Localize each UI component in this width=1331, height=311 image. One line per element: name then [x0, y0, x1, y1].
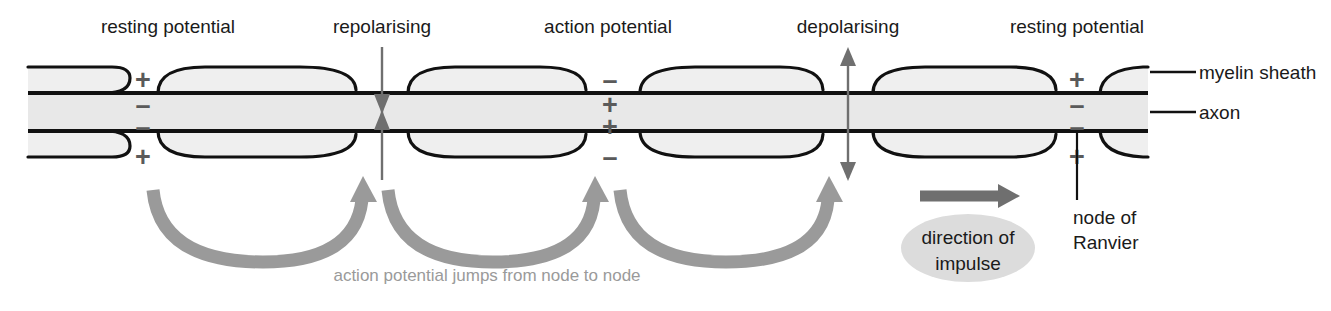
label-node-of-ranvier-line2: Ranvier — [1073, 232, 1139, 253]
axon-body — [28, 67, 1148, 157]
label-resting-potential-right: resting potential — [1010, 16, 1144, 37]
diagram-canvas: resting potential repolarising action po… — [0, 0, 1331, 311]
sign-inner-bottom-ap: + — [602, 112, 618, 142]
impulse-bubble-line2: impulse — [935, 253, 1000, 274]
label-node-of-ranvier-line1: node of — [1073, 207, 1137, 228]
label-depolarising: depolarising — [797, 16, 899, 37]
direction-of-impulse-group: direction of impulse — [901, 184, 1035, 282]
sign-inner-bottom-left: – — [135, 112, 150, 142]
neuron-saltatory-conduction-diagram: resting potential repolarising action po… — [0, 0, 1331, 311]
label-action-potential: action potential — [544, 16, 672, 37]
charge-signs-resting-left: + – – + — [135, 65, 151, 172]
sign-outer-bottom-ap: – — [602, 142, 617, 172]
label-axon: axon — [1199, 102, 1240, 123]
impulse-bubble-line1: direction of — [922, 227, 1016, 248]
axon-cytoplasm — [28, 93, 1148, 131]
sign-outer-bottom-left: + — [135, 142, 151, 172]
label-resting-potential-left: resting potential — [101, 16, 235, 37]
charge-signs-action-potential: – + + – — [602, 65, 618, 172]
label-repolarising: repolarising — [333, 16, 431, 37]
caption-action-potential-jumps: action potential jumps from node to node — [333, 266, 640, 285]
label-myelin-sheath: myelin sheath — [1199, 62, 1316, 83]
